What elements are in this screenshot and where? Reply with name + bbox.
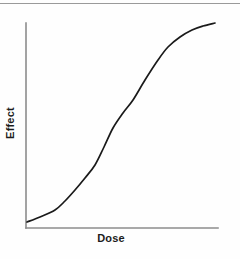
chart-plot-area (0, 0, 240, 259)
dose-response-figure: Effect Dose (0, 0, 240, 259)
y-axis-label: Effect (4, 97, 16, 149)
x-axis-label: Dose (71, 232, 151, 244)
dose-response-curve (27, 23, 215, 222)
